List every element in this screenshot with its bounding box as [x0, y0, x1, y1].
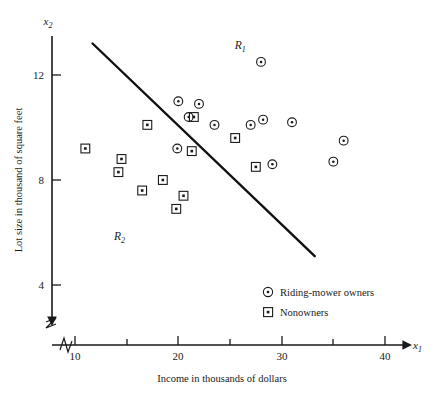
y-axis-title: Lot size in thousand of square feet	[13, 108, 24, 253]
data-point	[117, 155, 126, 164]
data-point	[268, 160, 277, 169]
linear-discriminant-line	[93, 44, 315, 257]
y-axis-break-icon	[46, 318, 56, 328]
data-point	[174, 97, 183, 106]
x-axis-variable: x1	[412, 339, 422, 354]
data-point	[251, 162, 260, 171]
data-point	[143, 120, 152, 129]
y-tick-label-12: 12	[33, 69, 44, 81]
data-point	[81, 144, 90, 153]
data-point	[259, 115, 268, 124]
legend-marker-square-dot	[264, 308, 273, 317]
data-point	[114, 168, 123, 177]
data-point	[172, 204, 181, 213]
legend-marker-circle-dot	[263, 287, 272, 296]
x-axis-ticks	[75, 336, 385, 345]
legend-label-nonowners: Nonowners	[280, 307, 328, 318]
x-tick-label-30: 30	[277, 350, 289, 362]
data-point	[288, 118, 297, 127]
data-point	[189, 113, 198, 122]
x-tick-label-20: 20	[173, 350, 185, 362]
data-point	[329, 157, 338, 166]
region-label-r2: R2	[113, 230, 125, 245]
series-nonowners	[81, 113, 260, 214]
x-tick-label-40: 40	[380, 350, 392, 362]
data-point	[158, 176, 167, 185]
scatter-plot-figure: 12 8 4 10 20 30 40 x2 x1 Lot size in tho…	[0, 0, 437, 396]
y-axis-variable: x2	[43, 15, 53, 30]
x-axis-title: Income in thousands of dollars	[157, 373, 286, 384]
y-axis-ticks	[52, 75, 61, 285]
plot-canvas: 12 8 4 10 20 30 40 x2 x1 Lot size in tho…	[0, 0, 437, 396]
data-point	[195, 99, 204, 108]
legend: Riding-mower owners Nonowners	[263, 287, 374, 318]
data-point	[184, 113, 193, 122]
x-tick-label-10: 10	[70, 350, 82, 362]
data-point	[246, 120, 255, 129]
data-point	[257, 57, 266, 66]
data-point	[173, 144, 182, 153]
data-point	[210, 120, 219, 129]
data-point	[339, 136, 348, 145]
y-tick-label-8: 8	[39, 174, 45, 186]
y-tick-label-4: 4	[39, 279, 45, 291]
data-point	[179, 191, 188, 200]
region-label-r1: R1	[234, 39, 246, 54]
data-point	[187, 147, 196, 156]
legend-label-riding-mower-owners: Riding-mower owners	[280, 287, 374, 298]
data-point	[138, 186, 147, 195]
data-point	[231, 134, 240, 143]
series-riding-mower-owners	[173, 57, 348, 168]
